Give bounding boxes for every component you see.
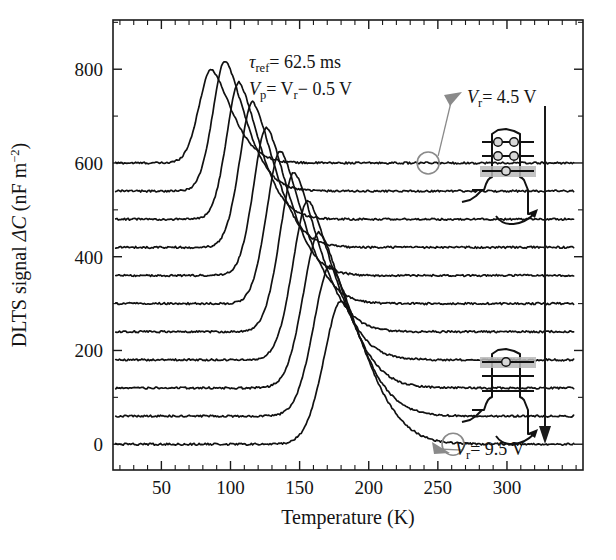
y-tick-label: 200 [75, 340, 104, 361]
vp-tail: − 0.5 V [298, 79, 352, 99]
dlts-figure: 50100150200250300 0200400600800 Temperat… [0, 0, 616, 560]
x-axis-title: Temperature (K) [281, 506, 415, 529]
x-tick-label: 300 [493, 477, 522, 498]
annotation-tau-ref: τref= 62.5 ms [249, 52, 341, 75]
y-axis-title: DLTS signal ΔC (nF m−2) [8, 143, 31, 347]
dlts-trace [116, 127, 574, 276]
tau-value: = 62.5 ms [269, 52, 341, 72]
y-tick-label: 600 [75, 153, 104, 174]
dlts-trace [116, 265, 574, 417]
top-leader-arrowhead [444, 92, 462, 106]
annotation-pulse-bias: Vp= Vr− 0.5 V [249, 79, 352, 102]
x-tick-label: 250 [424, 477, 453, 498]
vp-equals: = V [266, 79, 293, 99]
y-axis-tick-labels: 0200400600800 [75, 59, 104, 455]
y-tick-label: 0 [94, 434, 104, 455]
top-leader-line [438, 98, 452, 156]
y-tick-label: 800 [75, 59, 104, 80]
x-tick-label: 200 [354, 477, 383, 498]
dlts-trace [116, 201, 574, 361]
top-marker-group: Vr= 4.5 V [417, 87, 536, 174]
bottom-marker-group: Vr= 9.5 V [432, 433, 525, 462]
x-tick-label: 150 [285, 477, 314, 498]
x-axis-tick-labels: 50100150200250300 [152, 477, 521, 498]
svg-text:Vp= Vr− 0.5 V: Vp= Vr− 0.5 V [249, 79, 352, 102]
dlts-traces [116, 62, 574, 445]
band-diagram-top [462, 129, 538, 224]
dlts-chart-svg: 50100150200250300 0200400600800 Temperat… [0, 0, 616, 560]
bottom-leader-arrowhead [432, 442, 450, 454]
dlts-trace [116, 173, 574, 333]
x-tick-label: 100 [216, 477, 245, 498]
x-tick-label: 50 [152, 477, 171, 498]
dlts-trace [116, 301, 574, 445]
y-tick-label: 400 [75, 247, 104, 268]
top-bias-label: Vr= 4.5 V [467, 87, 537, 110]
svg-text:τref= 62.5 ms: τref= 62.5 ms [249, 52, 341, 75]
tau-subscript: ref [255, 61, 270, 75]
band-diagram-bottom [462, 349, 538, 444]
bottom-bias-label: Vr= 9.5 V [455, 439, 525, 462]
